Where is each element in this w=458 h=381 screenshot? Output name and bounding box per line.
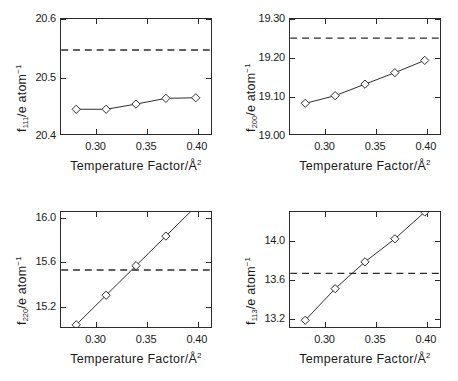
data-point-marker: [361, 80, 369, 88]
y-axis-tick-label: 19.00: [233, 129, 285, 141]
data-point-marker: [72, 105, 80, 113]
y-axis-tick-label: 15.6: [4, 255, 56, 267]
x-axis-tick-label: 0.30: [314, 333, 335, 345]
y-axis-tick-label: 19.30: [233, 12, 285, 24]
x-axis-tick-label: 0.35: [365, 333, 386, 345]
x-axis-tick-label: 0.30: [85, 140, 106, 152]
x-axis-tick-label: 0.35: [365, 140, 386, 152]
data-layer: [61, 212, 211, 327]
data-layer: [290, 212, 440, 327]
y-axis-tick-label: 13.6: [233, 273, 285, 285]
data-point-marker: [102, 105, 110, 113]
x-axis-tick-label: 0.30: [85, 333, 106, 345]
y-axis-title: f220/e atom−1: [14, 256, 29, 325]
data-layer: [290, 19, 440, 134]
data-layer: [61, 19, 211, 134]
x-axis-tick-label: 0.40: [415, 140, 436, 152]
data-point-marker: [421, 56, 429, 64]
data-point-marker: [301, 99, 309, 107]
data-point-marker: [132, 100, 140, 108]
x-axis-tick-label: 0.40: [186, 333, 207, 345]
figure-structure-factors: 20.420.520.60.300.350.40Temperature Fact…: [0, 0, 458, 381]
y-axis-tick-label: 14.0: [233, 234, 285, 246]
y-axis-tick-label: 15.2: [4, 300, 56, 312]
data-point-marker: [192, 94, 200, 102]
x-axis-title: Temperature Factor/Å2: [289, 158, 441, 173]
data-point-marker: [391, 69, 399, 77]
plot-panel: 19.0019.1019.2019.300.300.350.40Temperat…: [229, 0, 458, 190]
plot-panel: 13.213.614.00.300.350.40Temperature Fact…: [229, 191, 458, 381]
data-point-marker: [162, 94, 170, 102]
x-axis-tick-label: 0.35: [136, 333, 157, 345]
y-axis-title: f113/e atom−1: [243, 257, 258, 325]
y-axis-title: f111/e atom−1: [14, 64, 29, 132]
x-axis-tick-label: 0.40: [186, 140, 207, 152]
plot-panel: 20.420.520.60.300.350.40Temperature Fact…: [0, 0, 229, 190]
y-axis-tick-label: 16.0: [4, 211, 56, 223]
plot-panel: 15.215.616.00.300.350.40Temperature Fact…: [0, 191, 229, 381]
y-axis-title: f200/e atom−1: [243, 63, 258, 132]
x-axis-title: Temperature Factor/Å2: [60, 351, 212, 366]
y-axis-tick-label: 19.10: [233, 90, 285, 102]
y-axis-tick-label: 20.5: [4, 71, 56, 83]
y-axis-tick-label: 20.4: [4, 129, 56, 141]
x-axis-title: Temperature Factor/Å2: [60, 158, 212, 173]
plot-frame: [60, 211, 212, 328]
y-axis-tick-label: 19.20: [233, 51, 285, 63]
y-axis-tick-label: 20.6: [4, 12, 56, 24]
plot-frame: [289, 18, 441, 135]
data-point-marker: [331, 92, 339, 100]
x-axis-tick-label: 0.35: [136, 140, 157, 152]
x-axis-title: Temperature Factor/Å2: [289, 351, 441, 366]
x-axis-tick-label: 0.40: [415, 333, 436, 345]
plot-frame: [60, 18, 212, 135]
plot-frame: [289, 211, 441, 328]
x-axis-tick-label: 0.30: [314, 140, 335, 152]
y-axis-tick-label: 13.2: [233, 312, 285, 324]
